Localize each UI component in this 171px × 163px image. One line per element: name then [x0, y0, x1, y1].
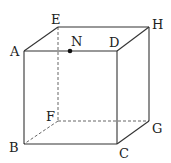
point-N — [68, 49, 73, 54]
hidden-edges — [24, 27, 149, 144]
edge-AE — [24, 27, 58, 51]
edge-GC — [117, 121, 149, 144]
edge-FB — [24, 121, 58, 144]
cube-diagram: A B C D E F G H N — [0, 0, 171, 163]
label-G: G — [152, 121, 162, 136]
edge-HD — [117, 27, 149, 51]
label-F: F — [46, 109, 55, 124]
label-H: H — [152, 17, 163, 32]
label-C: C — [119, 146, 129, 161]
label-E: E — [51, 12, 61, 27]
visible-edges — [24, 27, 149, 144]
label-N: N — [71, 34, 82, 49]
label-D: D — [109, 35, 119, 50]
label-B: B — [9, 140, 19, 155]
label-A: A — [9, 44, 20, 59]
